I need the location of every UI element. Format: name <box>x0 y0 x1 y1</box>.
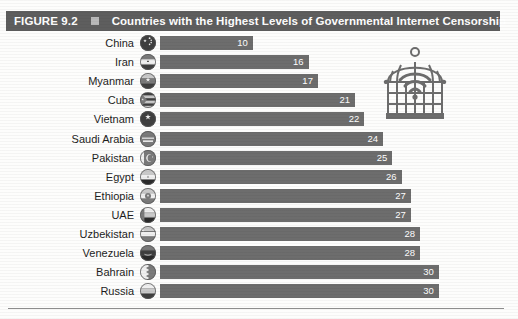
chart-row: Venezuela28 <box>0 246 518 260</box>
chart-row: Bahrain30 <box>0 265 518 279</box>
value-bar: 24 <box>160 132 383 146</box>
country-label: UAE <box>0 208 137 222</box>
chart-row: Ethiopia27 <box>0 189 518 203</box>
flag-pakistan-icon <box>140 150 156 166</box>
value-bar: 26 <box>160 170 402 184</box>
value-bar: 10 <box>160 36 253 50</box>
flag-saudi-arabia-icon <box>140 131 156 147</box>
flag-uzbekistan-icon <box>140 226 156 242</box>
flag-venezuela-icon <box>140 245 156 261</box>
country-label: Ethiopia <box>0 189 137 203</box>
value-bar: 25 <box>160 151 392 165</box>
value-bar: 30 <box>160 265 439 279</box>
country-label: Pakistan <box>0 151 137 165</box>
chart-row: Saudi Arabia24 <box>0 132 518 146</box>
value-bar: 27 <box>160 208 411 222</box>
birdcage-with-wifi-icon <box>378 47 452 127</box>
figure-header: FIGURE 9.2 Countries with the Highest Le… <box>6 11 500 31</box>
value-bar: 17 <box>160 74 318 88</box>
square-bullet-icon <box>91 17 99 25</box>
figure-container: FIGURE 9.2 Countries with the Highest Le… <box>0 0 518 319</box>
flag-china-icon <box>140 35 156 51</box>
chart-row: Egypt26 <box>0 170 518 184</box>
country-label: Russia <box>0 284 137 298</box>
value-bar: 28 <box>160 227 420 241</box>
flag-myanmar-icon <box>140 73 156 89</box>
value-bar: 16 <box>160 55 309 69</box>
flag-uae-icon <box>140 207 156 223</box>
country-label: Cuba <box>0 93 137 107</box>
chart-row: Russia30 <box>0 284 518 298</box>
chart-row: Uzbekistan28 <box>0 227 518 241</box>
country-label: Egypt <box>0 170 137 184</box>
bottom-divider <box>8 308 504 309</box>
country-label: Vietnam <box>0 112 137 126</box>
flag-cuba-icon <box>140 92 156 108</box>
value-bar: 28 <box>160 246 420 260</box>
flag-russia-icon <box>140 283 156 299</box>
value-bar: 27 <box>160 189 411 203</box>
chart-row: UAE27 <box>0 208 518 222</box>
country-label: Bahrain <box>0 265 137 279</box>
flag-bahrain-icon <box>140 264 156 280</box>
flag-vietnam-icon <box>140 111 156 127</box>
flag-iran-icon <box>140 54 156 70</box>
figure-title: Countries with the Highest Levels of Gov… <box>112 15 507 27</box>
value-bar: 22 <box>160 112 364 126</box>
country-label: Venezuela <box>0 246 137 260</box>
country-label: Uzbekistan <box>0 227 137 241</box>
value-bar: 30 <box>160 284 439 298</box>
country-label: China <box>0 36 137 50</box>
figure-number: FIGURE 9.2 <box>14 15 78 27</box>
country-label: Myanmar <box>0 74 137 88</box>
value-bar: 21 <box>160 93 355 107</box>
country-label: Saudi Arabia <box>0 132 137 146</box>
chart-row: Pakistan25 <box>0 151 518 165</box>
flag-egypt-icon <box>140 169 156 185</box>
flag-ethiopia-icon <box>140 188 156 204</box>
country-label: Iran <box>0 55 137 69</box>
